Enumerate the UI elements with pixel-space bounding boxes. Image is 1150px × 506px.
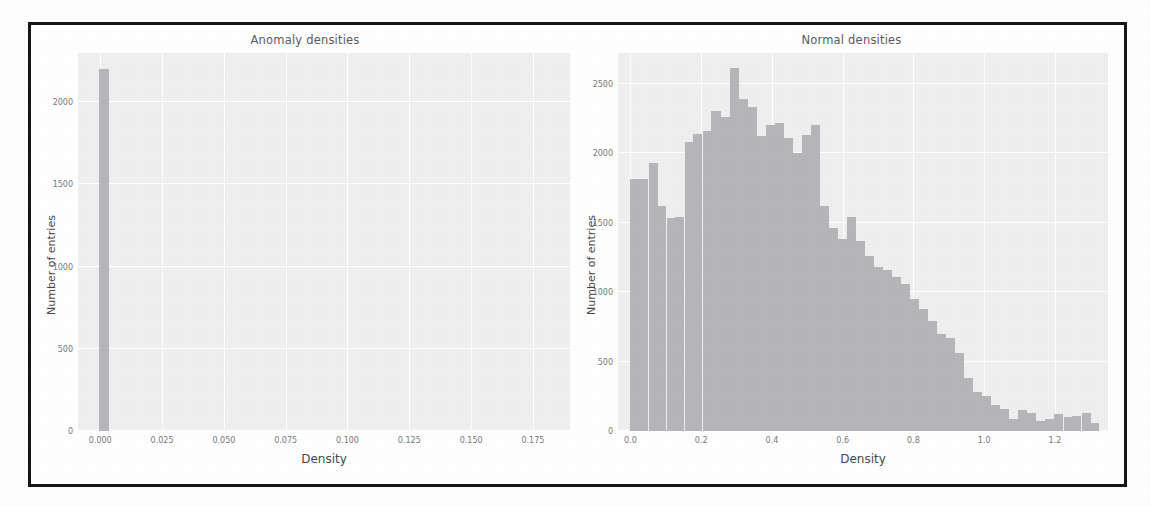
histogram-bar [1054,414,1063,431]
x-axis-ticks-normal: 0.00.20.40.60.81.01.2 [618,436,1108,450]
histogram-bar [793,153,802,431]
figure-border-frame: Anomaly densities 0500100015002000 0.000… [28,22,1127,487]
x-axis-tick-label: 0.6 [836,436,849,445]
histogram-bar [1082,413,1091,431]
histogram-bar [649,163,658,431]
histogram-bar [856,241,865,431]
histogram-bar [955,353,964,431]
x-axis-ticks-anomaly: 0.0000.0250.0500.0750.1000.1250.1500.175 [78,436,570,450]
histogram-bar [838,239,847,431]
x-axis-label-normal: Density [618,452,1108,466]
histogram-bar [757,136,766,431]
histogram-bar [667,218,676,431]
x-axis-tick-label: 0.100 [336,436,359,445]
plot-area-normal [618,53,1108,431]
chart-title-anomaly: Anomaly densities [31,33,579,47]
histogram-bar [675,217,684,431]
histogram-bar [1045,419,1054,432]
histogram-bar [657,206,666,431]
histogram-bar [1072,416,1081,431]
x-axis-tick-label: 1.0 [978,436,991,445]
histogram-bar [928,321,937,431]
y-axis-tick-label: 500 [598,357,613,366]
histogram-bars-normal [618,53,1108,431]
y-axis-tick-label: 0 [608,427,613,436]
x-axis-tick-label: 0.050 [212,436,235,445]
y-axis-tick-label: 500 [58,344,73,353]
histogram-bar [829,228,838,431]
histogram-bar [973,392,982,431]
histogram-bar [847,217,856,431]
histogram-bar [820,206,829,431]
x-axis-tick-label: 0.2 [695,436,708,445]
histogram-bar [1018,410,1027,431]
histogram-bar [775,123,784,432]
histogram-bar [1064,417,1073,431]
x-axis-tick-label: 0.075 [274,436,297,445]
x-axis-tick-label: 0.0 [624,436,637,445]
x-axis-tick-label: 0.150 [460,436,483,445]
y-axis-label-normal: Number of entries [585,215,598,315]
histogram-bar [964,378,973,431]
histogram-bar [901,284,910,431]
histogram-bar [766,125,775,431]
x-axis-tick-label: 0.175 [521,436,544,445]
histogram-bar [1000,409,1009,431]
histogram-bar [685,142,694,431]
histogram-bar [865,256,874,431]
histogram-bar [99,69,108,431]
y-axis-tick-label: 0 [68,427,73,436]
scanned-page: Anomaly densities 0500100015002000 0.000… [0,0,1150,506]
histogram-bar [946,338,955,431]
histogram-bar [748,107,757,431]
histogram-bar [919,309,928,431]
histogram-bars-anomaly [78,53,570,431]
subplot-normal-densities: Normal densities 05001000150020002500 0.… [579,25,1124,484]
histogram-bar [802,135,811,431]
x-axis-tick-label: 0.025 [151,436,174,445]
x-axis-tick-label: 0.8 [907,436,920,445]
histogram-bar [711,111,720,431]
histogram-bar [892,277,901,431]
histogram-bar [739,99,748,431]
histogram-bar [982,396,991,431]
x-axis-tick-label: 1.2 [1049,436,1062,445]
histogram-bar [630,179,639,431]
histogram-bar [1009,419,1018,432]
histogram-bar [1027,413,1036,431]
histogram-bar [811,125,820,431]
figure: Anomaly densities 0500100015002000 0.000… [31,25,1124,484]
x-axis-tick-label: 0.000 [89,436,112,445]
histogram-bar [784,138,793,431]
histogram-bar [910,299,919,431]
chart-title-normal: Normal densities [579,33,1124,47]
histogram-bar [991,405,1000,431]
plot-area-anomaly [78,53,570,431]
x-axis-tick-label: 0.4 [766,436,779,445]
y-axis-tick-label: 2000 [593,149,613,158]
y-axis-label-anomaly: Number of entries [45,215,58,315]
histogram-bar [730,68,739,431]
x-axis-label-anomaly: Density [78,452,570,466]
histogram-bar [639,179,648,431]
histogram-bar [693,134,702,431]
y-axis-tick-label: 1500 [53,180,73,189]
y-axis-tick-label: 2000 [53,98,73,107]
histogram-bar [721,117,730,431]
histogram-bar [703,131,712,431]
histogram-bar [937,334,946,431]
subplot-anomaly-densities: Anomaly densities 0500100015002000 0.000… [31,25,579,484]
histogram-bar [1036,421,1045,431]
histogram-bar [883,270,892,431]
histogram-bar [1090,423,1099,431]
histogram-bar [874,267,883,431]
y-axis-tick-label: 2500 [593,79,613,88]
x-axis-tick-label: 0.125 [398,436,421,445]
